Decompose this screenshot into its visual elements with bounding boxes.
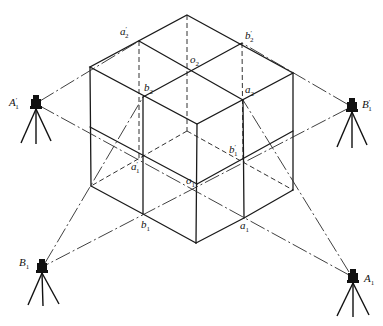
label-b1: b1 <box>141 218 151 233</box>
label-A1: A1 <box>363 272 375 287</box>
label-a2: a2 <box>245 83 255 98</box>
sight-line-A1p-A1 <box>40 106 349 275</box>
cube-visible-edges <box>90 15 293 243</box>
label-B1: B1 <box>19 256 30 271</box>
sight-line-A1p-a2p <box>40 41 139 101</box>
sight-line-B1p-b2p <box>242 43 347 104</box>
instrument-B1 <box>28 259 59 306</box>
hidden-edges <box>91 15 293 190</box>
label-B1-prime: B′1 <box>362 98 372 113</box>
sight-line-B1-b2 <box>45 97 143 263</box>
label-b2-prime: b′2 <box>245 29 254 44</box>
label-a1-prime: a′1 <box>131 160 140 175</box>
theodolite-icon <box>28 259 59 306</box>
instrument-A1-prime <box>21 95 51 144</box>
label-A1-prime: A′1 <box>8 96 19 111</box>
label-o2: o2 <box>190 53 200 68</box>
label-a1: a1 <box>240 219 250 234</box>
label-a2-prime: a′2 <box>120 25 129 40</box>
instrument-labels: A′1 B′1 B1 A1 <box>8 96 375 287</box>
label-b2: b2 <box>144 81 154 96</box>
diagram-canvas: a′2 b′2 o2 b2 a2 a′1 b′1 o1 b1 a1 A′1 B′… <box>0 0 383 326</box>
sight-lines <box>40 41 349 275</box>
theodolite-icon <box>21 95 51 144</box>
label-b1-prime: b′1 <box>229 143 238 158</box>
cube-survey-diagram: a′2 b′2 o2 b2 a2 a′1 b′1 o1 b1 a1 A′1 B′… <box>0 0 383 326</box>
